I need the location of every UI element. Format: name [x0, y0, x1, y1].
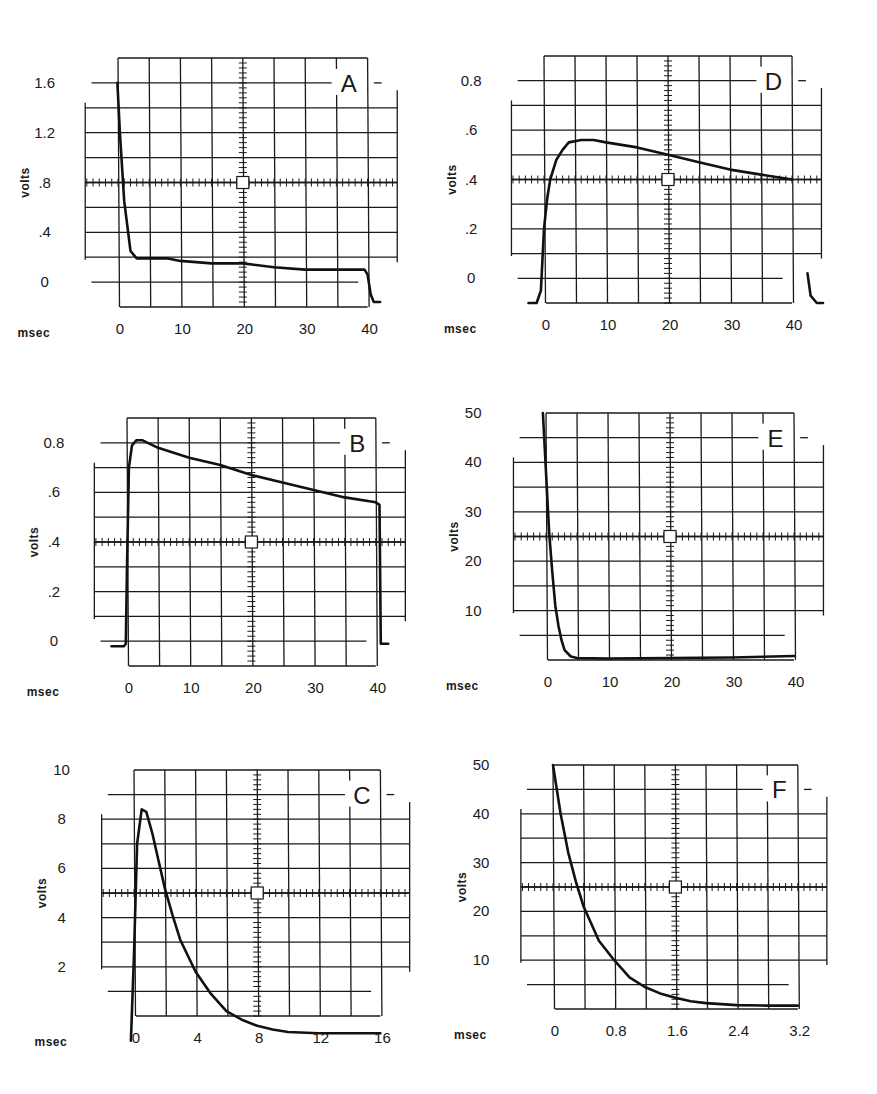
y-tick-label: 20	[465, 552, 482, 569]
y-axis-title: volts	[27, 527, 41, 558]
y-axis-title: volts	[18, 167, 32, 198]
x-tick-label: 30	[299, 320, 316, 337]
y-tick-label: 10	[473, 951, 490, 968]
x-tick-label: 30	[726, 673, 743, 690]
y-tick-label: 0	[41, 273, 49, 290]
x-tick-label: 10	[174, 320, 191, 337]
center-marker	[664, 531, 676, 543]
x-axis-title: msec	[34, 1035, 67, 1049]
x-tick-label: 10	[600, 316, 617, 333]
y-tick-label: .8	[38, 174, 51, 191]
x-tick-label: 20	[245, 679, 262, 696]
y-axis-title: volts	[35, 878, 49, 909]
y-tick-label: .2	[48, 583, 61, 600]
x-tick-label: 4	[193, 1029, 201, 1046]
y-tick-label: 6	[57, 859, 65, 876]
y-axis-title: volts	[445, 164, 459, 195]
y-tick-label: 30	[465, 503, 482, 520]
y-tick-label: 10	[465, 602, 482, 619]
x-tick-label: 40	[361, 320, 378, 337]
panel-letter: D	[765, 68, 782, 95]
center-marker	[237, 177, 249, 189]
x-tick-label: 40	[369, 679, 386, 696]
panel-F: F1020304050volts00.81.62.43.2msec	[454, 756, 827, 1042]
y-tick-label: 1.6	[34, 74, 55, 91]
y-tick-label: .6	[465, 121, 478, 138]
panel-E: E1020304050volts010203040msec	[446, 404, 824, 693]
y-tick-label: 8	[57, 810, 65, 827]
x-tick-label: 12	[312, 1029, 329, 1046]
y-tick-label: 20	[473, 902, 490, 919]
y-tick-label: .4	[38, 223, 51, 240]
x-axis-title: msec	[446, 679, 479, 693]
x-tick-label: 16	[374, 1029, 391, 1046]
y-tick-label: 50	[465, 404, 482, 421]
x-tick-label: 0	[125, 679, 133, 696]
y-tick-label: 0	[50, 632, 58, 649]
x-axis-title: msec	[444, 322, 477, 336]
y-tick-label: 0.8	[461, 72, 482, 89]
y-axis-title: volts	[447, 521, 461, 552]
panel-letter: B	[349, 430, 365, 457]
y-tick-label: .4	[465, 171, 478, 188]
x-tick-label: 0	[542, 316, 550, 333]
x-tick-label: 40	[786, 316, 803, 333]
x-axis-title: msec	[17, 326, 50, 340]
x-tick-label: 0.8	[606, 1022, 627, 1039]
center-axes	[94, 423, 405, 661]
panel-A: A0.4.81.21.6volts010203040msec	[17, 58, 397, 340]
oscilloscope-figure: A0.4.81.21.6volts010203040msec D0.2.4.60…	[0, 0, 877, 1094]
center-axes	[513, 418, 823, 655]
y-axis-title: volts	[455, 872, 469, 903]
y-tick-label: 10	[53, 761, 70, 778]
x-tick-label: 0	[116, 320, 124, 337]
signal-trace	[117, 83, 380, 302]
panel-letter: F	[772, 776, 787, 803]
panel-D: D0.2.4.60.8volts010203040msec	[444, 56, 823, 336]
x-axis-title: msec	[27, 685, 60, 699]
x-axis-title: msec	[454, 1028, 487, 1042]
center-marker	[251, 887, 263, 899]
x-tick-label: 30	[724, 316, 741, 333]
center-marker	[669, 881, 681, 893]
x-tick-label: 2.4	[728, 1022, 749, 1039]
center-axes	[102, 775, 410, 1016]
x-tick-label: 20	[664, 673, 681, 690]
x-tick-label: 10	[183, 679, 200, 696]
panel-letter: C	[353, 782, 370, 809]
panel-letter: A	[341, 70, 357, 97]
x-tick-label: 0	[551, 1022, 559, 1039]
y-tick-label: 30	[473, 854, 490, 871]
center-axes	[511, 61, 821, 303]
figure-canvas: A0.4.81.21.6volts010203040msec D0.2.4.60…	[0, 0, 877, 1094]
center-marker	[245, 536, 257, 548]
x-tick-label: 1.6	[667, 1022, 688, 1039]
y-tick-label: 0.8	[43, 434, 64, 451]
signal-trace-tail	[808, 273, 824, 303]
panel-B: B0.2.4.60.8volts010203040msec	[27, 418, 406, 699]
y-tick-label: 1.2	[34, 124, 55, 141]
x-tick-label: 20	[662, 316, 679, 333]
y-tick-label: 0	[467, 269, 475, 286]
x-tick-label: 10	[602, 673, 619, 690]
x-tick-label: 40	[788, 673, 805, 690]
x-tick-label: 20	[236, 320, 253, 337]
y-tick-label: 2	[57, 958, 65, 975]
y-tick-label: .6	[48, 483, 61, 500]
x-tick-label: 3.2	[789, 1022, 810, 1039]
panel-letter: E	[767, 425, 783, 452]
y-tick-label: 40	[465, 453, 482, 470]
x-tick-label: 0	[132, 1029, 140, 1046]
center-marker	[662, 174, 674, 186]
y-tick-label: 50	[473, 756, 490, 773]
y-tick-label: .4	[48, 533, 61, 550]
center-axes	[85, 63, 397, 302]
x-tick-label: 0	[544, 673, 552, 690]
y-tick-label: .2	[465, 220, 478, 237]
y-tick-label: 40	[473, 805, 490, 822]
center-axes	[521, 770, 827, 1009]
y-tick-label: 4	[57, 909, 65, 926]
x-tick-label: 8	[255, 1029, 263, 1046]
x-tick-label: 30	[307, 679, 324, 696]
panel-C: C246810volts0481216msec	[34, 761, 409, 1049]
